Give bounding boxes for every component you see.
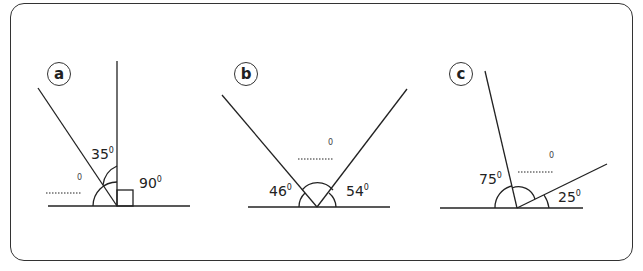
diagram-c-lines — [440, 71, 607, 208]
angle-c1-label: 750 — [479, 171, 502, 187]
unknown-b-label: 0 — [328, 138, 333, 147]
angle-a2-label: 900 — [139, 175, 162, 191]
angle-a1-label: 350 — [91, 146, 114, 162]
diagram-c-badge: c — [449, 62, 473, 86]
diagram-b-lines — [222, 89, 407, 207]
angle-b2-label: 540 — [346, 183, 369, 199]
angle-c2-label: 250 — [558, 189, 581, 205]
unknown-c-label: 0 — [549, 151, 554, 160]
angle-b1-label: 460 — [269, 183, 292, 199]
unknown-a-label: 0 — [77, 173, 82, 182]
diagram-a-badge: a — [47, 62, 71, 86]
angle-diagrams — [0, 0, 643, 271]
diagram-b-badge: b — [234, 62, 258, 86]
